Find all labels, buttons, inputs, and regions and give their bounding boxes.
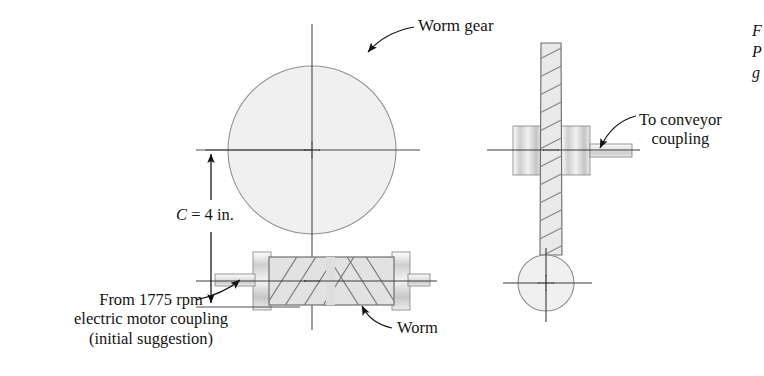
worm-gear-drive-figure: Worm gear To conveyorcoupling C = 4 in. … (0, 0, 764, 376)
label-from-motor-line1: From 1775 rpm (36, 290, 266, 309)
center-distance-symbol: C (176, 205, 187, 224)
caption-line2: P (752, 41, 762, 62)
caption-line3: g (752, 62, 762, 83)
figure-caption-clipped: FPg (752, 20, 762, 83)
label-from-motor-line2: electric motor coupling (36, 309, 266, 328)
label-to-conveyor-line2: coupling (639, 129, 722, 148)
label-from-motor-line3: (initial suggestion) (36, 329, 266, 348)
caption-line1: F (752, 20, 762, 41)
leader-to-conveyor (600, 116, 636, 148)
label-to-conveyor-coupling: To conveyorcoupling (639, 110, 722, 149)
label-to-conveyor-line1: To conveyor (639, 110, 722, 129)
center-distance-value: = 4 in. (187, 205, 234, 224)
worm-right-shaft (408, 274, 430, 286)
label-from-motor-coupling: From 1775 rpmelectric motor coupling(ini… (36, 290, 266, 348)
leader-worm (362, 306, 392, 328)
leader-worm-gear (368, 27, 414, 52)
label-worm-gear: Worm gear (418, 16, 494, 36)
label-center-distance: C = 4 in. (176, 205, 234, 224)
label-worm: Worm (397, 318, 438, 337)
